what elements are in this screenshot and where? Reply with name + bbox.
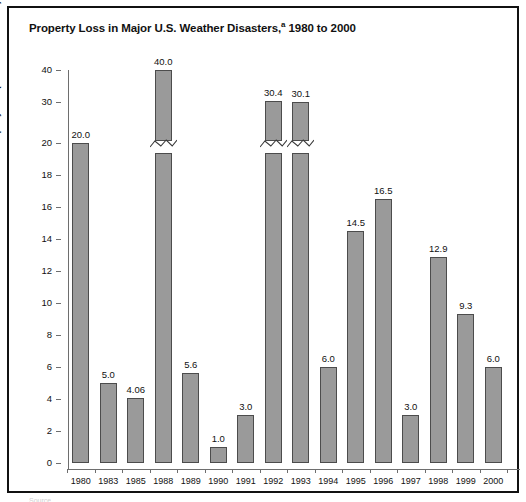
y-tick-mark — [56, 143, 61, 144]
y-tick-mark — [56, 70, 61, 71]
x-tick-label: 1980 — [67, 476, 95, 486]
bar[interactable] — [72, 143, 89, 463]
bar[interactable] — [347, 231, 364, 463]
x-tick-mark — [95, 469, 96, 473]
y-tick-mark — [56, 271, 61, 272]
bar-value-label: 14.5 — [346, 217, 365, 228]
bar-value-label: 3.0 — [239, 401, 252, 412]
y-axis-tick: 14 — [9, 239, 61, 240]
bar-value-label: 40.0 — [154, 56, 173, 67]
y-axis-tick: 0 — [9, 463, 61, 464]
axis-break-mark — [287, 137, 314, 151]
bar[interactable] — [210, 447, 227, 463]
bar-upper-segment[interactable] — [155, 70, 172, 141]
bar-group[interactable]: 5.0 — [100, 8, 117, 464]
bar[interactable] — [485, 367, 502, 463]
y-axis-tick: 4 — [9, 399, 61, 400]
bar[interactable] — [237, 415, 254, 463]
x-tick-mark — [260, 469, 261, 473]
y-tick-label: 2 — [47, 425, 52, 436]
bar-lower-segment[interactable] — [292, 153, 309, 463]
y-tick-mark — [56, 463, 61, 464]
bar-value-label: 5.6 — [184, 359, 197, 370]
cropped-footnote: Source — [29, 497, 51, 502]
bar-group[interactable]: 9.3 — [457, 8, 474, 464]
bar-value-label: 30.4 — [264, 87, 283, 98]
y-axis-tick: 12 — [9, 271, 61, 272]
x-tick-label: 1992 — [260, 476, 288, 486]
y-axis-tick: 40 — [9, 70, 61, 71]
bar-value-label: 16.5 — [374, 185, 393, 196]
bar[interactable] — [457, 314, 474, 463]
bar-group[interactable]: 16.5 — [375, 8, 392, 464]
x-tick-label: 1996 — [370, 476, 398, 486]
y-axis-tick: 20 — [9, 143, 61, 144]
bar-value-label: 30.1 — [291, 88, 310, 99]
bar-group[interactable]: 30.4 — [265, 8, 282, 464]
y-axis-tick: 6 — [9, 367, 61, 368]
bar[interactable] — [127, 398, 144, 463]
x-tick-label: 1998 — [425, 476, 453, 486]
x-tick-mark — [67, 469, 68, 473]
bar-value-label: 4.06 — [126, 384, 145, 395]
y-axis-tick: 2 — [9, 431, 61, 432]
bar-group[interactable]: 1.0 — [210, 8, 227, 464]
bar-group[interactable]: 40.0 — [155, 8, 172, 464]
bar-value-label: 1.0 — [212, 433, 225, 444]
bar[interactable] — [430, 257, 447, 463]
y-axis-title: Property loss (in billions of dollars) — [0, 0, 1, 148]
bar-group[interactable]: 20.0 — [72, 8, 89, 464]
bar[interactable] — [402, 415, 419, 463]
bar-lower-segment[interactable] — [155, 153, 172, 463]
y-tick-mark — [56, 102, 61, 103]
bar-group[interactable]: 14.5 — [347, 8, 364, 464]
y-axis-tick: 30 — [9, 102, 61, 103]
x-tick-mark — [205, 469, 206, 473]
bar-group[interactable]: 12.9 — [430, 8, 447, 464]
y-tick-label: 20 — [41, 137, 52, 148]
bar-group[interactable]: 3.0 — [237, 8, 254, 464]
bar-value-label: 9.3 — [459, 300, 472, 311]
bar[interactable] — [182, 373, 199, 463]
y-tick-label: 4 — [47, 393, 52, 404]
x-tick-mark — [425, 469, 426, 473]
x-tick-mark — [150, 469, 151, 473]
axis-break-mark — [150, 137, 177, 151]
x-tick-mark — [452, 469, 453, 473]
y-axis-tick: 18 — [9, 175, 61, 176]
bar-group[interactable]: 30.1 — [292, 8, 309, 464]
bar[interactable] — [320, 367, 337, 463]
x-tick-label: 1985 — [122, 476, 150, 486]
bar-upper-segment[interactable] — [292, 102, 309, 141]
x-tick-label: 1990 — [205, 476, 233, 486]
y-tick-mark — [56, 367, 61, 368]
bar-value-label: 5.0 — [102, 369, 115, 380]
bar-group[interactable]: 4.06 — [127, 8, 144, 464]
x-tick-label: 1997 — [397, 476, 425, 486]
y-tick-mark — [56, 303, 61, 304]
bar-group[interactable]: 3.0 — [402, 8, 419, 464]
bar-value-label: 6.0 — [322, 353, 335, 364]
figure-frame: Property Loss in Major U.S. Weather Disa… — [7, 6, 519, 493]
x-tick-mark — [480, 469, 481, 473]
x-tick-label: 2000 — [480, 476, 508, 486]
bar[interactable] — [100, 383, 117, 463]
x-tick-label: 1999 — [452, 476, 480, 486]
y-axis-tick: 8 — [9, 335, 61, 336]
bar-group[interactable]: 6.0 — [485, 8, 502, 464]
y-tick-mark — [56, 239, 61, 240]
bar-group[interactable]: 6.0 — [320, 8, 337, 464]
y-tick-mark — [56, 399, 61, 400]
bar-group[interactable]: 5.6 — [182, 8, 199, 464]
bar-upper-segment[interactable] — [265, 101, 282, 141]
x-tick-mark — [177, 469, 178, 473]
x-tick-label: 1988 — [150, 476, 178, 486]
x-tick-mark — [507, 469, 508, 473]
y-tick-label: 30 — [41, 96, 52, 107]
bar-value-label: 3.0 — [404, 401, 417, 412]
y-tick-label: 10 — [41, 297, 52, 308]
bar[interactable] — [375, 199, 392, 463]
bar-lower-segment[interactable] — [265, 153, 282, 463]
y-axis-tick: 10 — [9, 303, 61, 304]
x-tick-label: 1983 — [95, 476, 123, 486]
